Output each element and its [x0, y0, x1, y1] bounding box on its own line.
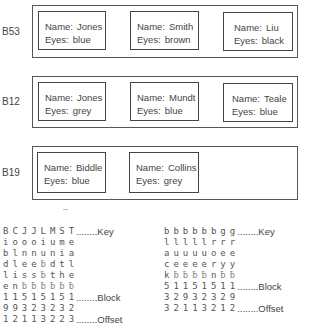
name-value: Jones [77, 21, 102, 32]
index-row: 99323232 [3, 303, 78, 314]
index-cell: e [192, 259, 201, 270]
eyes-key: Eyes: [45, 34, 69, 45]
block-label-b19: B19 [2, 167, 20, 178]
index-cell: g [220, 226, 229, 237]
eyes-value: blue [73, 34, 91, 45]
eyes-value: blue [165, 105, 183, 116]
index-row: bbbbbbgg........Key [164, 226, 239, 237]
index-row: lllllrrr [164, 237, 239, 248]
index-cell: 2 [211, 303, 220, 314]
index-cell: 5 [41, 292, 50, 303]
index-row: dleeƀdtl [3, 259, 78, 270]
record-card: Name:Smith Eyes:brown [130, 11, 199, 50]
index-cell: k [164, 270, 173, 281]
index-cell: m [59, 237, 68, 248]
index-row: BCJJLMST........Key [3, 226, 78, 237]
index-row: lissƀthe [3, 270, 78, 281]
index-cell: o [22, 237, 31, 248]
index-cell: u [183, 248, 192, 259]
index-cell: 1 [183, 281, 192, 292]
record-card: Name:Mundt Eyes:blue [130, 82, 199, 121]
index-cell: ƀ [183, 270, 192, 281]
index-cell: 3 [41, 303, 50, 314]
eyes-index-table: bbbbbbgg........Keylllllrrrauuuuoeeceeee… [164, 226, 239, 314]
index-cell: 1 [192, 303, 201, 314]
index-row: ioooiume [3, 237, 78, 248]
eyes-key: Eyes: [45, 105, 69, 116]
index-cell: M [50, 226, 59, 237]
name-key: Name: [136, 162, 164, 173]
eyes-key: Eyes: [137, 105, 161, 116]
index-cell: 2 [69, 303, 78, 314]
index-row: 12113223........Offset [3, 314, 78, 325]
name-value: Jones [77, 92, 102, 103]
index-cell: 2 [173, 303, 182, 314]
index-cell: 2 [220, 292, 229, 303]
eyes-value: blue [260, 106, 278, 117]
name-value: Liu [266, 22, 279, 33]
eyes-value: blue [72, 175, 90, 186]
index-cell: b [211, 226, 220, 237]
index-cell: 5 [211, 281, 220, 292]
index-cell: 3 [164, 303, 173, 314]
index-cell: ƀ [41, 270, 50, 281]
index-cell: 1 [3, 314, 12, 325]
index-row: 11515151........Block [3, 292, 78, 303]
eyes-value: grey [73, 105, 91, 116]
index-cell: s [22, 270, 31, 281]
index-key-tag: ........Key [237, 226, 275, 237]
index-cell: 2 [12, 314, 21, 325]
index-cell: J [22, 226, 31, 237]
name-value: Collins [168, 162, 197, 173]
index-cell: b [173, 226, 182, 237]
name-value: Mundt [169, 92, 195, 103]
index-cell: 1 [173, 281, 182, 292]
index-cell: i [12, 270, 21, 281]
index-cell: e [173, 259, 182, 270]
index-cell: t [50, 270, 59, 281]
index-cell: r [211, 259, 220, 270]
index-cell: o [211, 248, 220, 259]
index-cell: 1 [183, 303, 192, 314]
index-cell: 5 [192, 281, 201, 292]
index-cell: l [12, 248, 21, 259]
index-cell: 9 [230, 292, 239, 303]
index-cell: y [220, 259, 229, 270]
index-cell: u [41, 248, 50, 259]
index-cell: l [173, 237, 182, 248]
index-cell: b [183, 226, 192, 237]
index-cell: i [3, 237, 12, 248]
index-cell: ƀ [202, 270, 211, 281]
index-cell: u [50, 237, 59, 248]
index-key-tag: ........Key [76, 226, 114, 237]
name-key: Name: [45, 92, 73, 103]
name-key: Name: [45, 21, 73, 32]
eyes-key: Eyes: [232, 106, 256, 117]
index-cell: B [3, 226, 12, 237]
record-card: Name:Biddle Eyes:blue [37, 152, 106, 193]
index-row: kƀƀƀƀnƀƀ [164, 270, 239, 281]
index-cell: C [12, 226, 21, 237]
index-cell: n [31, 248, 40, 259]
index-block-tag: ........Block [237, 281, 281, 292]
index-cell: l [164, 237, 173, 248]
index-row: blnnunia [3, 248, 78, 259]
index-cell: 5 [164, 281, 173, 292]
index-cell: e [230, 248, 239, 259]
index-cell: n [50, 248, 59, 259]
separator-mark [63, 209, 68, 210]
index-cell: ƀ [173, 270, 182, 281]
index-cell: 1 [22, 314, 31, 325]
index-cell: e [220, 248, 229, 259]
eyes-key: Eyes: [234, 35, 258, 46]
name-key: Name: [44, 162, 72, 173]
index-cell: o [12, 237, 21, 248]
index-cell: ƀ [192, 270, 201, 281]
index-row: ceeeeryy [164, 259, 239, 270]
record-card: Name:Jones Eyes:blue [38, 11, 106, 50]
record-card: Name:Jones Eyes:grey [38, 82, 106, 121]
index-cell: ƀ [31, 281, 40, 292]
index-cell: 9 [12, 303, 21, 314]
index-row: 32932329 [164, 292, 239, 303]
index-cell: 3 [41, 314, 50, 325]
